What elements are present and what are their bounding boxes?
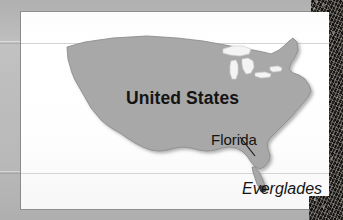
film-edge-texture-bottom xyxy=(309,196,329,220)
lake-ontario-shape xyxy=(270,66,282,72)
lake-michigan-shape xyxy=(230,60,238,79)
label-florida: Florida xyxy=(211,132,257,147)
label-united-states: United States xyxy=(126,90,239,108)
label-everglades: Everglades xyxy=(242,181,322,197)
film-edge-texture-top xyxy=(311,0,329,12)
slide-screenshot: United States Florida Everglades xyxy=(0,0,343,220)
lake-erie-shape xyxy=(255,72,271,78)
lake-superior-shape xyxy=(223,46,251,56)
film-edge-texture-right xyxy=(329,0,343,220)
slide-panel: United States Florida Everglades xyxy=(20,11,332,210)
